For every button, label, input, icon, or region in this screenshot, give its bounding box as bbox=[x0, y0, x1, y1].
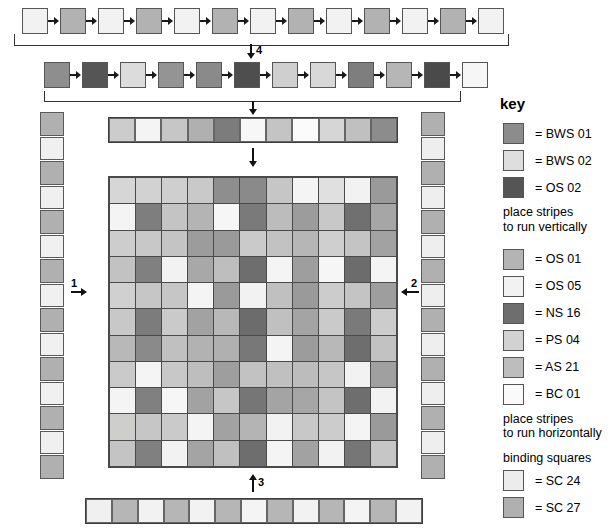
grid-cell bbox=[371, 309, 396, 334]
key-title: key bbox=[500, 95, 615, 112]
grid-cell bbox=[345, 283, 370, 308]
grid-cell bbox=[136, 309, 161, 334]
grid-cell bbox=[345, 231, 370, 256]
right-column-cell bbox=[421, 137, 445, 161]
right-column-cell bbox=[421, 161, 445, 185]
grid-cell bbox=[345, 204, 370, 229]
grid-cell bbox=[319, 336, 344, 361]
grid-cell bbox=[110, 388, 135, 413]
top-strip-cell bbox=[345, 118, 371, 142]
second-sequence-square bbox=[462, 62, 488, 88]
grid-cell bbox=[267, 257, 292, 282]
right-arrow-icon bbox=[352, 8, 364, 34]
key-note-horizontal: place stripesto run horizontally bbox=[503, 412, 615, 442]
key-group-binding: = SC 24= SC 27 bbox=[497, 468, 615, 520]
left-column-cell bbox=[40, 333, 64, 357]
right-arrow-icon bbox=[276, 8, 288, 34]
left-column-cell bbox=[40, 357, 64, 381]
top-strip-cell bbox=[266, 118, 292, 142]
grid-cell bbox=[345, 178, 370, 203]
grid-cell bbox=[214, 309, 239, 334]
top-strip-cell bbox=[240, 118, 266, 142]
right-arrow-icon bbox=[146, 62, 158, 88]
key-swatch bbox=[503, 497, 524, 518]
grid-cell bbox=[136, 257, 161, 282]
left-column-cell bbox=[40, 137, 64, 161]
key-horizontal-row: = AS 21 bbox=[497, 355, 615, 380]
grid-cell bbox=[293, 336, 318, 361]
right-arrow-icon bbox=[260, 62, 272, 88]
grid-cell bbox=[240, 204, 265, 229]
grid-cell bbox=[267, 231, 292, 256]
grid-cell bbox=[214, 178, 239, 203]
grid-cell bbox=[162, 283, 187, 308]
left-column-cell bbox=[40, 161, 64, 185]
right-arrow-icon bbox=[412, 62, 424, 88]
grid-cell bbox=[110, 283, 135, 308]
sequence-row-second bbox=[44, 62, 488, 88]
grid-cell bbox=[214, 362, 239, 387]
grid-cell bbox=[267, 178, 292, 203]
grid-cell bbox=[188, 362, 213, 387]
arrow-3-label: 3 bbox=[258, 477, 264, 488]
grid-cell bbox=[240, 309, 265, 334]
grid-cell bbox=[188, 178, 213, 203]
key-swatch bbox=[503, 177, 524, 198]
grid-cell bbox=[240, 441, 265, 466]
top-strip-cell bbox=[319, 118, 345, 142]
left-column-cell bbox=[40, 259, 64, 283]
right-arrow-icon bbox=[200, 8, 212, 34]
top-strip-cell bbox=[292, 118, 318, 142]
right-arrow-icon bbox=[70, 62, 82, 88]
grid-cell bbox=[162, 388, 187, 413]
key-swatch bbox=[503, 276, 524, 297]
bottom-strip-cell bbox=[215, 499, 241, 523]
grid-cell bbox=[267, 336, 292, 361]
arrow-4-label: 4 bbox=[256, 45, 262, 56]
grid-cell bbox=[136, 178, 161, 203]
top-sequence-square bbox=[288, 8, 314, 34]
grid-cell bbox=[110, 178, 135, 203]
arrow-down-to-grid bbox=[250, 148, 264, 170]
right-column-cell bbox=[421, 455, 445, 479]
grid-cell bbox=[136, 231, 161, 256]
grid-cell bbox=[136, 441, 161, 466]
key-swatch bbox=[503, 357, 524, 378]
grid-cell bbox=[110, 336, 135, 361]
grid-cell bbox=[319, 283, 344, 308]
top-sequence-square bbox=[364, 8, 390, 34]
key-label: = OS 05 bbox=[535, 279, 581, 293]
key-label: = SC 24 bbox=[535, 474, 581, 488]
bottom-strip-cell bbox=[112, 499, 138, 523]
left-column-cell bbox=[40, 186, 64, 210]
key-binding-heading: binding squares bbox=[503, 451, 615, 465]
grid-cell bbox=[319, 178, 344, 203]
grid-cell bbox=[240, 388, 265, 413]
grid-cell bbox=[240, 178, 265, 203]
grid-cell bbox=[214, 231, 239, 256]
arrow-down-to-top-strip bbox=[250, 101, 264, 117]
key-group-horizontal: = OS 01= OS 05= NS 16= PS 04= AS 21= BC … bbox=[497, 247, 615, 407]
grid-cell bbox=[162, 204, 187, 229]
grid-cell bbox=[371, 204, 396, 229]
key-label: = OS 02 bbox=[535, 181, 581, 195]
bottom-strip-cell bbox=[164, 499, 190, 523]
grid-cell bbox=[214, 336, 239, 361]
bottom-strip-cell bbox=[241, 499, 267, 523]
second-sequence-square bbox=[386, 62, 412, 88]
grid-cell bbox=[162, 414, 187, 439]
grid-cell bbox=[293, 257, 318, 282]
key-swatch bbox=[503, 303, 524, 324]
top-strip-cell bbox=[109, 118, 135, 142]
key-label: = PS 04 bbox=[535, 333, 580, 347]
grid-cell bbox=[319, 414, 344, 439]
right-column-cell bbox=[421, 382, 445, 406]
grid-cell bbox=[240, 414, 265, 439]
grid-cell bbox=[110, 441, 135, 466]
right-arrow-icon bbox=[336, 62, 348, 88]
grid-cell bbox=[110, 362, 135, 387]
grid-cell bbox=[319, 309, 344, 334]
right-column-cell bbox=[421, 210, 445, 234]
top-strip-cell bbox=[135, 118, 161, 142]
grid-cell bbox=[267, 309, 292, 334]
